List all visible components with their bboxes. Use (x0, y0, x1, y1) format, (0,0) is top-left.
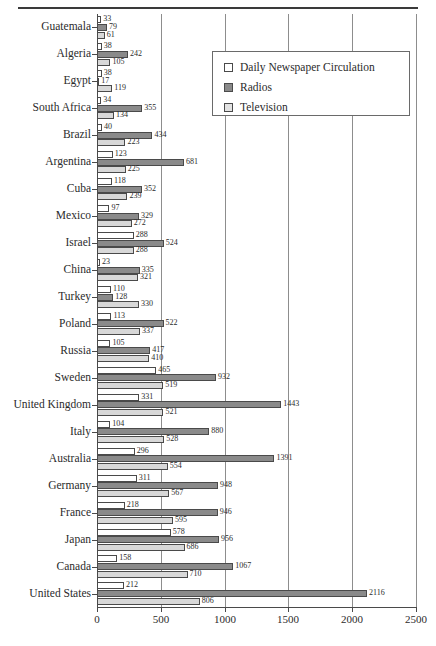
bar-value-label: 17 (101, 77, 109, 84)
bar-value-label: 128 (115, 293, 127, 300)
bar-value-label: 23 (102, 258, 110, 265)
bar-value-label: 38 (104, 42, 112, 49)
bar-argentina-daily-newspaper-circulation (97, 151, 113, 158)
bar-germany-daily-newspaper-circulation (97, 475, 137, 482)
bar-japan-daily-newspaper-circulation (97, 529, 171, 536)
bar-guatemala-radios (97, 24, 107, 31)
bar-guatemala-daily-newspaper-circulation (97, 16, 101, 23)
bar-value-label: 218 (127, 501, 139, 508)
chart-page: 05001000150020002500Guatemala337961Alger… (0, 0, 436, 646)
bar-value-label: 681 (186, 158, 198, 165)
bar-egypt-radios (97, 78, 99, 85)
bar-value-label: 355 (144, 104, 156, 111)
bar-russia-daily-newspaper-circulation (97, 340, 110, 347)
bar-australia-television (97, 463, 168, 470)
category-label-brazil: Brazil (0, 128, 91, 140)
category-label-china: China (0, 263, 91, 275)
bar-canada-television (97, 571, 188, 578)
category-label-turkey: Turkey (0, 290, 91, 302)
bar-value-label: 105 (112, 58, 124, 65)
bar-china-daily-newspaper-circulation (97, 259, 100, 266)
bar-value-label: 321 (140, 273, 152, 280)
legend-swatch-icon (224, 103, 233, 112)
bar-guatemala-television (97, 32, 105, 39)
bar-value-label: 330 (141, 300, 153, 307)
bar-poland-television (97, 328, 140, 335)
bar-brazil-radios (97, 132, 152, 139)
legend-label: Radios (240, 81, 272, 93)
category-label-japan: Japan (0, 533, 91, 545)
legend-label: Television (240, 101, 288, 113)
bar-value-label: 465 (158, 366, 170, 373)
legend-item-daily-newspaper-circulation: Daily Newspaper Circulation (224, 61, 375, 73)
category-label-canada: Canada (0, 560, 91, 572)
category-label-russia: Russia (0, 344, 91, 356)
category-label-germany: Germany (0, 479, 91, 491)
bar-value-label: 880 (211, 427, 223, 434)
bar-value-label: 242 (130, 50, 142, 57)
bar-united-kingdom-radios (97, 401, 281, 408)
bar-argentina-television (97, 166, 126, 173)
bar-russia-radios (97, 347, 150, 354)
bar-value-label: 223 (127, 138, 139, 145)
bar-value-label: 932 (218, 373, 230, 380)
bar-south-africa-television (97, 112, 114, 119)
bar-poland-daily-newspaper-circulation (97, 313, 111, 320)
bar-value-label: 519 (165, 381, 177, 388)
category-label-argentina: Argentina (0, 155, 91, 167)
bar-value-label: 296 (137, 447, 149, 454)
category-label-south-africa: South Africa (0, 101, 91, 113)
bar-united-states-radios (97, 590, 367, 597)
bar-value-label: 528 (166, 435, 178, 442)
x-tick-label-500: 500 (153, 613, 170, 625)
bar-italy-television (97, 436, 164, 443)
bar-sweden-radios (97, 374, 216, 381)
bar-value-label: 158 (119, 554, 131, 561)
category-label-poland: Poland (0, 317, 91, 329)
bar-value-label: 79 (109, 23, 117, 30)
bar-value-label: 104 (112, 420, 124, 427)
bar-turkey-radios (97, 294, 113, 301)
bar-sweden-television (97, 382, 163, 389)
bar-value-label: 272 (134, 219, 146, 226)
bar-brazil-daily-newspaper-circulation (97, 124, 102, 131)
bar-japan-radios (97, 536, 219, 543)
bar-united-states-daily-newspaper-circulation (97, 582, 124, 589)
category-label-egypt: Egypt (0, 74, 91, 86)
bar-mexico-radios (97, 213, 139, 220)
bar-france-television (97, 517, 173, 524)
bar-russia-television (97, 355, 149, 362)
category-label-cuba: Cuba (0, 182, 91, 194)
category-label-guatemala: Guatemala (0, 20, 91, 32)
legend-swatch-icon (224, 83, 233, 92)
bar-value-label: 595 (175, 516, 187, 523)
bar-value-label: 288 (136, 246, 148, 253)
bar-value-label: 118 (114, 177, 126, 184)
bar-brazil-television (97, 139, 125, 146)
category-label-israel: Israel (0, 236, 91, 248)
bar-argentina-radios (97, 159, 184, 166)
bar-value-label: 105 (112, 339, 124, 346)
bar-value-label: 311 (139, 474, 151, 481)
bar-china-television (97, 274, 138, 281)
bar-value-label: 710 (190, 570, 202, 577)
bar-value-label: 1391 (276, 454, 292, 461)
legend-item-television: Television (224, 101, 288, 113)
x-gridline-2500 (416, 14, 417, 607)
bar-germany-radios (97, 482, 218, 489)
bar-australia-daily-newspaper-circulation (97, 448, 135, 455)
bar-value-label: 946 (220, 508, 232, 515)
bar-value-label: 352 (144, 185, 156, 192)
category-label-united-kingdom: United Kingdom (0, 398, 91, 410)
x-tick-label-1500: 1500 (277, 613, 299, 625)
bar-japan-television (97, 544, 185, 551)
bar-value-label: 212 (126, 581, 138, 588)
bar-value-label: 288 (136, 231, 148, 238)
bar-value-label: 1067 (235, 562, 251, 569)
bar-egypt-television (97, 85, 112, 92)
bar-value-label: 686 (187, 543, 199, 550)
category-label-france: France (0, 506, 91, 518)
category-label-united-states: United States (0, 587, 91, 599)
bar-value-label: 239 (129, 192, 141, 199)
bar-israel-television (97, 247, 134, 254)
